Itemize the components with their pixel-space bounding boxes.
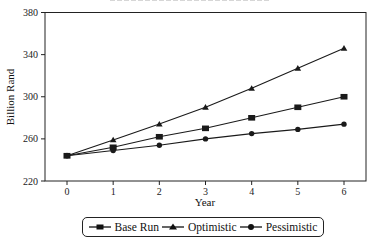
y-tick-label: 380 [23,7,38,18]
line-chart: 220260300340380 0123456 Billion Rand Yea… [0,0,376,250]
legend-label: Pessimistic [266,221,318,233]
x-axis: 0123456 [65,181,347,197]
x-axis-title: Year [195,196,216,208]
data-point [203,136,208,141]
x-tick-label: 5 [295,186,300,197]
x-tick-label: 2 [157,186,162,197]
legend-label: Optimistic [188,221,237,233]
data-point [341,121,346,126]
circle-marker-icon [240,222,262,232]
data-point [295,65,302,71]
triangle-marker-icon [162,222,184,232]
square-marker-icon [89,222,111,232]
plot-area [45,13,366,182]
data-point [156,134,163,140]
legend: Base Run Optimistic Pessimistic [82,217,324,237]
y-tick-label: 300 [23,91,38,102]
data-point [110,148,115,153]
legend-item-pessimistic: Pessimistic [240,221,318,233]
x-tick-label: 1 [111,186,116,197]
data-point [295,127,300,132]
data-point [202,126,209,132]
y-tick-label: 260 [23,133,38,144]
legend-label: Base Run [115,221,159,233]
x-tick-label: 0 [65,186,70,197]
series-base-run [64,94,348,159]
x-tick-label: 6 [342,186,347,197]
y-tick-label: 220 [23,176,38,187]
legend-item-base-run: Base Run [89,221,159,233]
data-point [341,94,348,100]
series-layer [64,45,348,158]
data-point [341,45,348,51]
data-point [157,142,162,147]
y-tick-label: 340 [23,49,38,60]
x-tick-label: 4 [249,186,254,197]
data-point [294,104,301,110]
data-point [248,115,255,121]
legend-item-optimistic: Optimistic [162,221,237,233]
data-point [248,85,255,91]
y-axis-title: Billion Rand [4,68,16,125]
data-point [64,153,69,158]
data-point [249,131,254,136]
y-axis: 220260300340380 [23,7,45,187]
